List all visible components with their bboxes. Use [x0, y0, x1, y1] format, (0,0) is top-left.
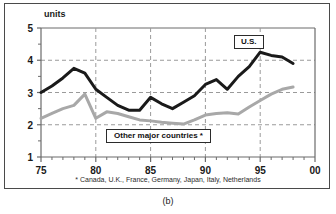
svg-text:75: 75 — [35, 165, 47, 176]
axis-tick-labels: 12345758085909500 — [27, 23, 321, 176]
svg-text:95: 95 — [255, 165, 267, 176]
svg-text:00: 00 — [309, 165, 321, 176]
svg-text:90: 90 — [200, 165, 212, 176]
series-label-other-major-countries: Other major countries * — [106, 129, 211, 143]
figure-panel: units 12345758085909500 Other major coun… — [0, 0, 336, 214]
svg-text:4: 4 — [27, 55, 33, 66]
footnote-text: * Canada, U.K., France, Germany, Japan, … — [0, 176, 336, 183]
svg-text:5: 5 — [27, 23, 33, 34]
svg-text:2: 2 — [27, 120, 33, 131]
figure-caption: (b) — [0, 196, 336, 206]
svg-text:1: 1 — [27, 152, 33, 163]
svg-text:80: 80 — [90, 165, 102, 176]
data-series-group — [41, 52, 293, 124]
series-label-us: U.S. — [234, 35, 264, 49]
svg-text:3: 3 — [27, 88, 33, 99]
svg-text:85: 85 — [145, 165, 157, 176]
